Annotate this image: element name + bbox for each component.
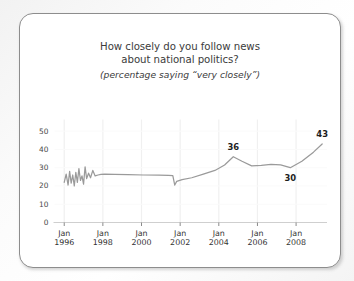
x-axis-tick-label: Jan1996 bbox=[44, 229, 84, 248]
x-axis-tick-label: Jan2004 bbox=[199, 229, 239, 248]
x-axis-tick-label: Jan2008 bbox=[276, 229, 316, 248]
data-point-label: 30 bbox=[279, 173, 301, 183]
chart-plot-area: 01020304050Jan1996Jan1998Jan2000Jan2002J… bbox=[0, 0, 354, 281]
x-axis-tick-label: Jan1998 bbox=[83, 229, 123, 248]
x-axis-tick-label: Jan2006 bbox=[237, 229, 277, 248]
data-point-label: 43 bbox=[311, 129, 333, 139]
y-axis-tick-label: 0 bbox=[31, 218, 49, 227]
data-point-label: 36 bbox=[222, 142, 244, 152]
y-axis-tick-label: 20 bbox=[31, 181, 49, 190]
y-axis-tick-label: 10 bbox=[31, 200, 49, 209]
y-axis-tick-label: 40 bbox=[31, 145, 49, 154]
y-axis-tick-label: 30 bbox=[31, 163, 49, 172]
y-axis-tick-label: 50 bbox=[31, 127, 49, 136]
x-axis-tick-label: Jan2000 bbox=[122, 229, 162, 248]
x-axis-tick-label: Jan2002 bbox=[160, 229, 200, 248]
